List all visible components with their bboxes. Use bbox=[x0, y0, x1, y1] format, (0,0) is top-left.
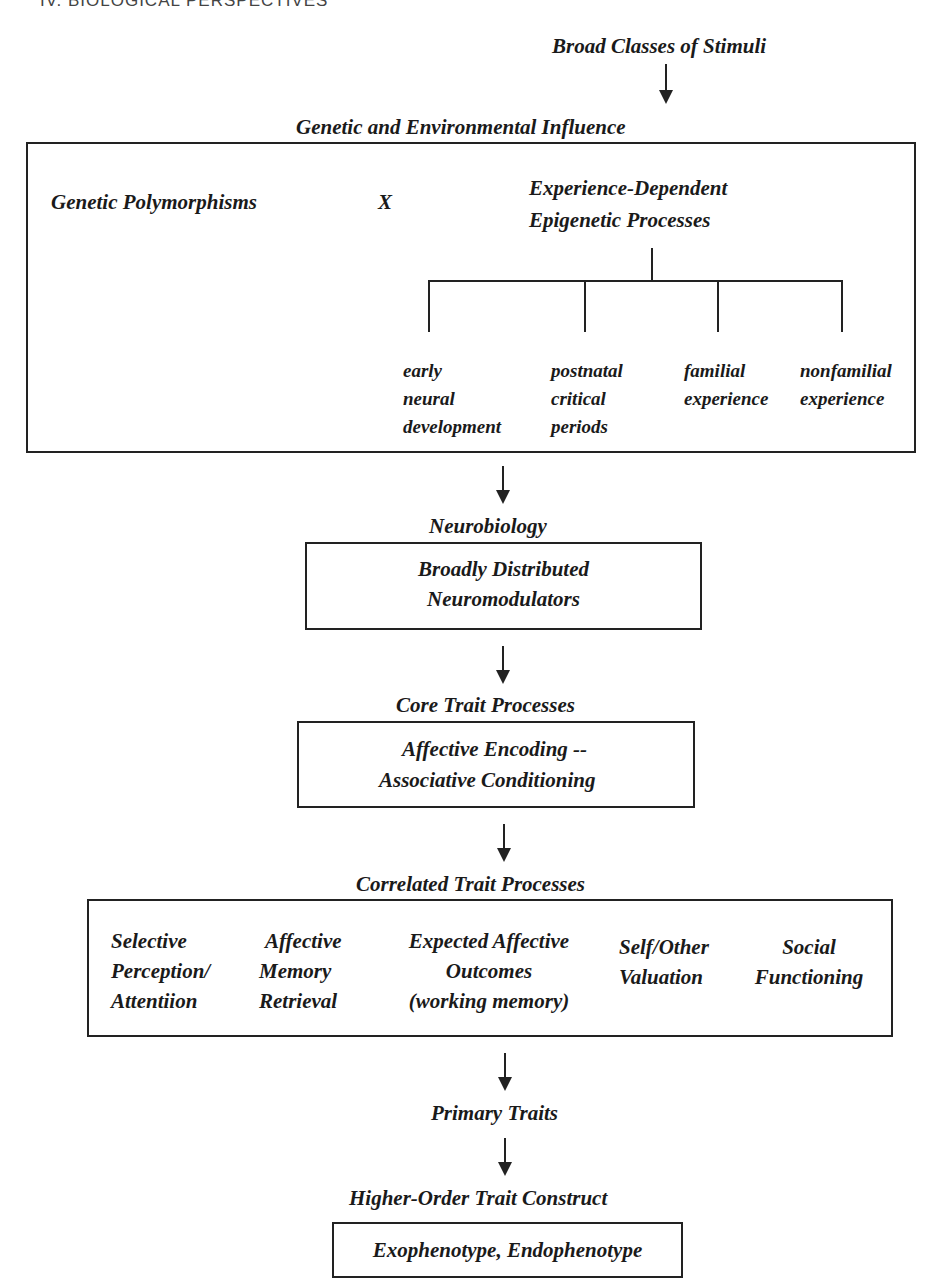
neurobiology-box: Broadly Distributed Neuromodulators bbox=[305, 542, 702, 630]
genetic-env-box: Genetic Polymorphisms X Experience-Depen… bbox=[26, 142, 916, 453]
associative-conditioning-label: Associative Conditioning bbox=[379, 770, 595, 791]
branch-nonfamilial-experience: nonfamilial experience bbox=[800, 357, 892, 413]
affective-encoding-label: Affective Encoding -- bbox=[402, 739, 587, 760]
epigenetic-line2: Epigenetic Processes bbox=[529, 210, 710, 231]
interaction-operator: X bbox=[378, 192, 392, 213]
item-affective-memory: Affective Memory Retrieval bbox=[259, 926, 342, 1016]
tree-stem bbox=[651, 248, 653, 282]
branch-early-neural-development: early neural development bbox=[403, 357, 501, 441]
arrow-down-icon bbox=[498, 1053, 512, 1093]
neuromodulators-label-line2: Neuromodulators bbox=[307, 589, 700, 610]
tree-branch-4 bbox=[841, 280, 843, 332]
item-selective-perception: Selective Perception/ Attentiion bbox=[111, 926, 210, 1016]
correlated-trait-box: Selective Perception/ Attentiion Affecti… bbox=[87, 899, 893, 1037]
core-trait-box: Affective Encoding -- Associative Condit… bbox=[297, 721, 695, 808]
item-self-other-valuation: Self/Other Valuation bbox=[619, 932, 709, 992]
core-trait-title: Core Trait Processes bbox=[396, 695, 575, 716]
correlated-trait-title: Correlated Trait Processes bbox=[356, 874, 585, 895]
tree-bar bbox=[428, 280, 843, 282]
stimuli-label: Broad Classes of Stimuli bbox=[552, 36, 766, 57]
neurobiology-title: Neurobiology bbox=[429, 516, 547, 537]
genetic-polymorphisms-label: Genetic Polymorphisms bbox=[51, 192, 257, 213]
tree-branch-3 bbox=[717, 280, 719, 332]
phenotype-box: Exophenotype, Endophenotype bbox=[332, 1222, 683, 1278]
arrow-down-icon bbox=[659, 64, 673, 104]
tree-branch-1 bbox=[428, 280, 430, 332]
genetic-env-title: Genetic and Environmental Influence bbox=[296, 117, 626, 138]
item-expected-affective-outcomes: Expected Affective Outcomes (working mem… bbox=[389, 926, 589, 1016]
primary-traits-title: Primary Traits bbox=[431, 1103, 558, 1124]
higher-order-title: Higher-Order Trait Construct bbox=[349, 1188, 607, 1209]
arrow-down-icon bbox=[497, 824, 511, 864]
item-social-functioning: Social Functioning bbox=[744, 932, 874, 992]
arrow-down-icon bbox=[496, 466, 510, 506]
neuromodulators-label: Broadly Distributed bbox=[307, 559, 700, 580]
arrow-down-icon bbox=[496, 646, 510, 686]
epigenetic-line1: Experience-Dependent bbox=[529, 178, 727, 199]
running-head: IV. BIOLOGICAL PERSPECTIVES bbox=[40, 0, 328, 11]
branch-familial-experience: familial experience bbox=[684, 357, 768, 413]
branch-postnatal-critical-periods: postnatal critical periods bbox=[551, 357, 623, 441]
arrow-down-icon bbox=[498, 1138, 512, 1178]
tree-branch-2 bbox=[584, 280, 586, 332]
phenotype-label: Exophenotype, Endophenotype bbox=[334, 1240, 681, 1261]
